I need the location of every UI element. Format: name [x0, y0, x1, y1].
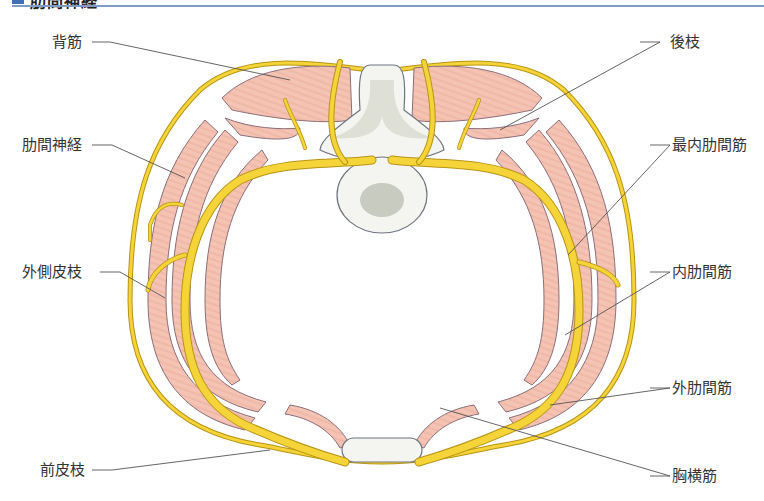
label-back-muscle: 背筋: [52, 33, 82, 51]
label-external-intercostal-muscle: 外肋間筋: [672, 379, 732, 397]
label-intercostal-nerve: 肋間神経: [22, 136, 82, 154]
label-innermost-intercostal-muscle: 最内肋間筋: [672, 136, 747, 154]
label-internal-intercostal-muscle: 内肋間筋: [672, 263, 732, 281]
sternum: [342, 438, 422, 462]
label-posterior-branch: 後枝: [670, 33, 700, 51]
label-lateral-cutaneous-branch: 外側皮枝: [22, 263, 82, 281]
label-anterior-cutaneous-branch: 前皮枝: [40, 461, 85, 479]
label-transversus-thoracis-muscle: 胸横筋: [672, 467, 717, 485]
thorax-cross-section-diagram: [0, 0, 764, 501]
